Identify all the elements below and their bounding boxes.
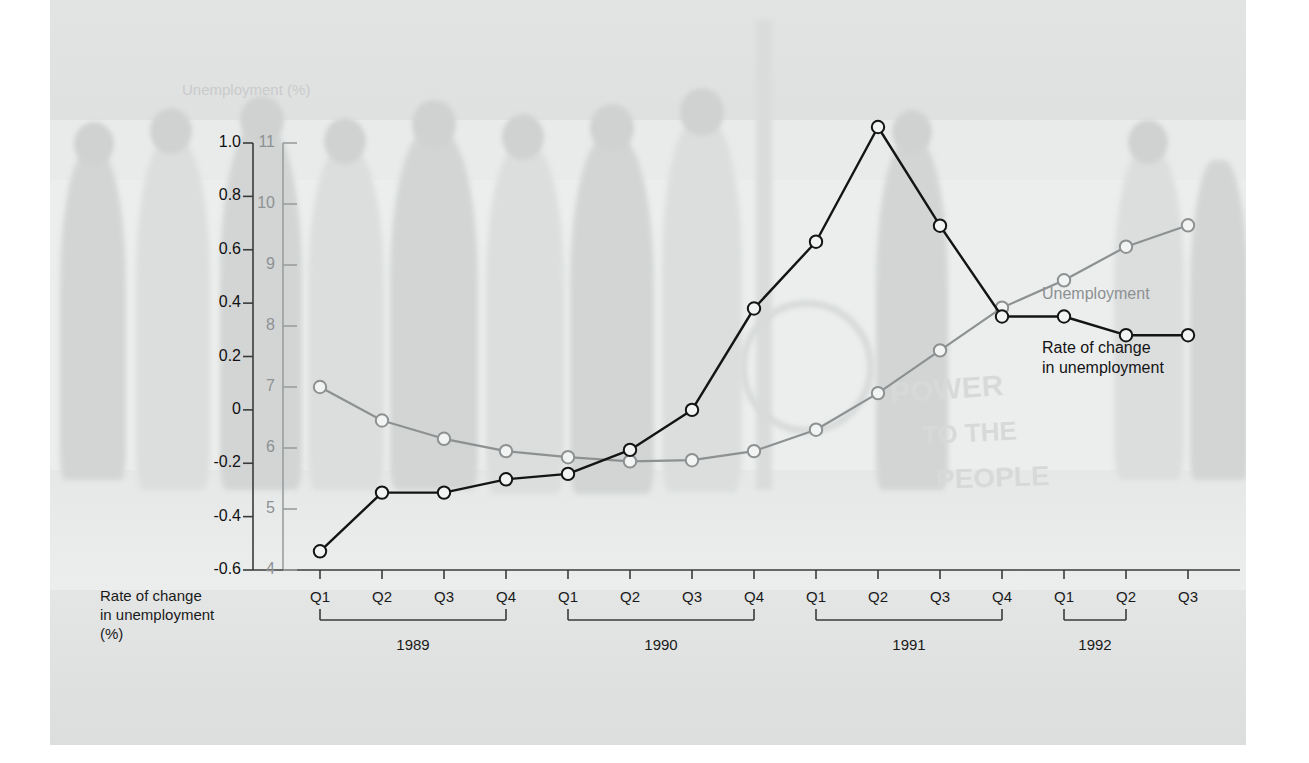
inner-axis-tick-label: 9 bbox=[225, 255, 275, 273]
inner-axis-tick-label: 4 bbox=[225, 560, 275, 578]
unemployment-axis-title: Unemployment (%) bbox=[182, 80, 310, 99]
data-point bbox=[438, 433, 450, 445]
x-axis-quarter-label: Q3 bbox=[666, 588, 718, 605]
rate-axis-title: Rate of change in unemployment (%) bbox=[100, 586, 214, 643]
data-point bbox=[810, 236, 822, 248]
x-axis-quarter-label: Q1 bbox=[542, 588, 594, 605]
left-axis-tick-label: 0 bbox=[177, 400, 241, 418]
x-axis-quarter-label: Q3 bbox=[418, 588, 470, 605]
inner-axis-tick-label: 7 bbox=[225, 377, 275, 395]
x-axis-quarter-label: Q1 bbox=[790, 588, 842, 605]
left-axis-tick-label: 0.4 bbox=[177, 293, 241, 311]
x-axis-quarter-label: Q4 bbox=[976, 588, 1028, 605]
data-point bbox=[314, 545, 326, 557]
data-point bbox=[748, 302, 760, 314]
data-point bbox=[500, 445, 512, 457]
x-axis-quarter-label: Q3 bbox=[914, 588, 966, 605]
data-point bbox=[438, 486, 450, 498]
data-point bbox=[872, 121, 884, 133]
data-point bbox=[872, 387, 884, 399]
data-point bbox=[624, 444, 636, 456]
x-axis-year-label: 1991 bbox=[859, 636, 959, 653]
left-axis-tick-label: 0.2 bbox=[177, 347, 241, 365]
x-axis-year-label: 1989 bbox=[363, 636, 463, 653]
x-axis-quarter-label: Q2 bbox=[356, 588, 408, 605]
data-point bbox=[748, 445, 760, 457]
data-point bbox=[1182, 219, 1194, 231]
figure-root: POWER TO THE PEOPLE Unemployment (%) Rat… bbox=[0, 0, 1309, 763]
x-axis-quarter-label: Q2 bbox=[604, 588, 656, 605]
data-point bbox=[934, 344, 946, 356]
data-point bbox=[500, 473, 512, 485]
data-point bbox=[934, 220, 946, 232]
data-point bbox=[562, 451, 574, 463]
data-point bbox=[1182, 329, 1194, 341]
x-axis-quarter-label: Q1 bbox=[1038, 588, 1090, 605]
inner-axis-tick-label: 10 bbox=[225, 194, 275, 212]
x-axis-year-label: 1992 bbox=[1045, 636, 1145, 653]
x-axis-quarter-label: Q1 bbox=[294, 588, 346, 605]
inner-axis-tick-label: 11 bbox=[225, 133, 275, 151]
data-point bbox=[376, 486, 388, 498]
data-point bbox=[562, 468, 574, 480]
data-point bbox=[376, 414, 388, 426]
x-axis-quarter-label: Q4 bbox=[728, 588, 780, 605]
x-axis-year-label: 1990 bbox=[611, 636, 711, 653]
data-point bbox=[810, 424, 822, 436]
x-axis-quarter-label: Q4 bbox=[480, 588, 532, 605]
inner-axis-tick-label: 8 bbox=[225, 316, 275, 334]
data-point bbox=[686, 404, 698, 416]
axes-layer bbox=[243, 143, 1240, 620]
data-point bbox=[314, 381, 326, 393]
inner-axis-tick-label: 5 bbox=[225, 499, 275, 517]
x-axis-quarter-label: Q2 bbox=[1100, 588, 1152, 605]
x-axis-quarter-label: Q3 bbox=[1162, 588, 1214, 605]
inner-axis-tick-label: 6 bbox=[225, 438, 275, 456]
data-point bbox=[1120, 241, 1132, 253]
data-point bbox=[1058, 310, 1070, 322]
series-label-rate-of-change: Rate of change in unemployment bbox=[1042, 338, 1164, 378]
series-label-unemployment: Unemployment bbox=[1042, 284, 1150, 304]
data-point bbox=[686, 454, 698, 466]
data-point bbox=[996, 310, 1008, 322]
x-axis-quarter-label: Q2 bbox=[852, 588, 904, 605]
